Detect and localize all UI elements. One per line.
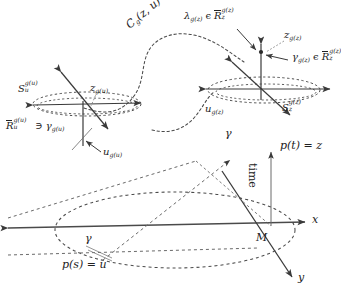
axis-x-line [8,222,305,228]
left-gamma-tick [72,128,92,150]
cone-ps-label: p(s) = u [62,259,107,270]
cone-chord-line [8,248,258,255]
right-ellipse-inner [216,84,316,100]
left-u-leader [86,141,101,152]
right-S-label: Sg(z)g(z)z [282,103,301,113]
cone-gamma-top-label: γ [225,128,232,139]
cone-apex-connector [196,161,271,226]
right-z-label: zg(z) [284,30,301,41]
right-tangent-ellipse-group [206,29,330,115]
left-z-label: zg(u) [90,83,108,94]
axis-y-label: y [298,272,304,283]
right-origin-dot [259,50,263,54]
left-S-label: Sg(u)g(u)u [18,84,38,94]
right-z-leader [266,41,284,52]
right-lambda-arrow [237,29,256,50]
cone-edge-lower [8,161,196,218]
right-gamma-arrow [266,55,288,60]
cone-time-label: time [247,163,258,188]
gamma-bottom-tick [86,246,112,258]
axis-x-label: x [312,214,318,225]
right-lambda-label: λg(z)ϵRg(z)g(z)z [184,11,234,22]
cone-pt-label: p(t) = z [280,140,322,151]
right-ellipse-outer [208,77,320,103]
left-u-label: ug(u) [103,147,122,158]
cone-edge-upper [103,160,230,260]
right-gamma-label: γg(z)ϵRg(z)g(z)z [292,52,341,63]
cone-M-label: M [256,232,267,243]
left-Rbar-gamma-label: Rg(u)g(u)u∋γg(u) [6,121,64,132]
spacetime-frame-group [8,152,305,277]
left-tangent-ellipse-group [33,72,141,152]
left-diagonal-axis [61,72,108,129]
cone-gamma-bottom-label: γ [85,233,92,244]
right-u-label: ug(z) [205,104,224,115]
curve-cg-path [84,34,244,112]
left-ellipse-inner [37,98,137,114]
